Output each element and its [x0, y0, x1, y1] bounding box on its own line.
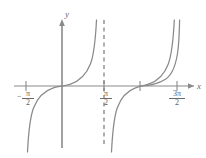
tick-label-neg-pi-over-2: − π 2: [22, 90, 34, 108]
denominator: 2: [169, 99, 185, 107]
denominator: 2: [100, 99, 112, 107]
y-axis-label: y: [65, 10, 69, 19]
tick-label-pi-over-2: π 2: [100, 90, 112, 108]
y-axis: [59, 19, 65, 148]
tangent-function-figure: x y − π 2 π 2 3π 2: [0, 0, 206, 158]
tick-label-three-pi-over-2: 3π 2: [169, 90, 185, 108]
x-axis-arrow: [188, 83, 194, 89]
graph-canvas: [0, 0, 206, 158]
x-axis-label: x: [197, 82, 201, 91]
y-axis-arrow: [59, 19, 65, 26]
minus-sign: −: [17, 93, 22, 101]
denominator: 2: [22, 99, 34, 107]
